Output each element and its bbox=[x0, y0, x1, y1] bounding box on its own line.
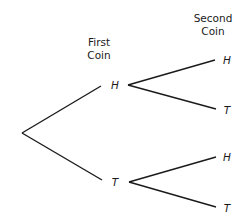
first-coin-header-line1: First bbox=[88, 36, 110, 48]
edge-h-to-h bbox=[128, 60, 215, 85]
edge-t-to-t bbox=[129, 182, 216, 207]
node-first-h: H bbox=[111, 79, 119, 91]
edge-root-to-h bbox=[22, 86, 101, 133]
leaf-th: H bbox=[223, 151, 231, 163]
edge-root-to-t bbox=[22, 133, 102, 180]
node-first-t: T bbox=[112, 176, 120, 188]
leaf-ht: T bbox=[224, 104, 232, 116]
leaf-tt: T bbox=[224, 202, 232, 214]
second-coin-header-line2: Coin bbox=[201, 25, 224, 37]
coin-toss-tree-diagram: First Coin Second Coin H T H T H T bbox=[0, 0, 244, 222]
edge-h-to-t bbox=[128, 85, 216, 109]
second-coin-header-line1: Second bbox=[194, 12, 233, 24]
first-coin-header-line2: Coin bbox=[87, 49, 110, 61]
edge-t-to-h bbox=[129, 157, 216, 182]
leaf-hh: H bbox=[223, 54, 231, 66]
